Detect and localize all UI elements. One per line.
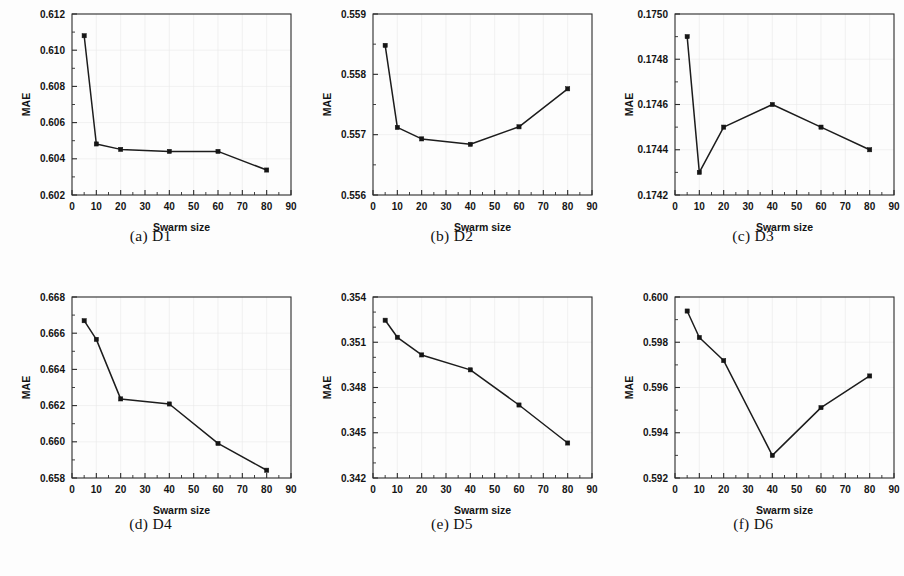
- x-tick-label: 40: [766, 201, 778, 212]
- data-point-marker: [94, 142, 98, 146]
- x-tick-label: 70: [538, 484, 550, 495]
- x-tick-label: 20: [416, 484, 428, 495]
- data-point-marker: [517, 125, 521, 129]
- x-tick-label: 50: [188, 484, 200, 495]
- y-tick-label: 0.348: [341, 382, 366, 393]
- panel-caption-d2: (b) D2: [301, 227, 602, 245]
- panel-caption-d3: (c) D3: [603, 227, 904, 245]
- data-point-marker: [265, 468, 269, 472]
- x-tick-label: 30: [139, 484, 151, 495]
- x-tick-label: 30: [742, 484, 754, 495]
- data-point-marker: [94, 337, 98, 341]
- x-tick-label: 80: [562, 484, 574, 495]
- x-tick-label: 50: [489, 201, 501, 212]
- panel-d3: 0.17420.17440.17460.17480.17500102030405…: [603, 0, 904, 283]
- x-tick-label: 40: [164, 484, 176, 495]
- panel-d2: 0.5560.5570.5580.5590102030405060708090S…: [301, 0, 602, 283]
- y-tick-label: 0.1744: [637, 144, 668, 155]
- x-tick-label: 90: [587, 484, 599, 495]
- y-tick-label: 0.558: [341, 69, 366, 80]
- x-tick-label: 40: [465, 201, 477, 212]
- data-point-marker: [818, 406, 822, 410]
- chart-svg: 0.17420.17440.17460.17480.17500102030405…: [603, 0, 904, 250]
- x-tick-label: 60: [514, 201, 526, 212]
- x-tick-label: 50: [188, 201, 200, 212]
- data-point-marker: [167, 149, 171, 153]
- x-tick-label: 0: [672, 201, 678, 212]
- x-tick-label: 90: [888, 201, 900, 212]
- x-tick-label: 90: [285, 201, 297, 212]
- data-point-marker: [420, 137, 424, 141]
- y-tick-label: 0.610: [40, 45, 65, 56]
- data-point-marker: [685, 35, 689, 39]
- chart-svg: 0.5560.5570.5580.5590102030405060708090S…: [301, 0, 602, 250]
- data-point-marker: [770, 102, 774, 106]
- y-tick-label: 0.1748: [637, 54, 668, 65]
- data-point-marker: [82, 319, 86, 323]
- x-tick-label: 10: [91, 484, 103, 495]
- data-point-marker: [867, 374, 871, 378]
- x-tick-label: 20: [416, 201, 428, 212]
- y-tick-label: 0.660: [40, 436, 65, 447]
- x-tick-label: 90: [888, 484, 900, 495]
- x-tick-label: 90: [587, 201, 599, 212]
- plot-frame: [373, 14, 592, 195]
- x-tick-label: 60: [212, 201, 224, 212]
- plot-frame: [72, 297, 291, 478]
- x-tick-label: 0: [672, 484, 678, 495]
- data-point-marker: [119, 397, 123, 401]
- x-tick-label: 30: [441, 201, 453, 212]
- x-tick-label: 70: [839, 484, 851, 495]
- x-tick-label: 60: [815, 484, 827, 495]
- x-tick-label: 30: [139, 201, 151, 212]
- x-tick-label: 70: [839, 201, 851, 212]
- y-tick-label: 0.602: [40, 190, 65, 201]
- y-tick-label: 0.1742: [637, 190, 668, 201]
- panel-d5: 0.3420.3450.3480.3510.354010203040506070…: [301, 283, 602, 576]
- panel-d1: 0.6020.6040.6060.6080.6100.6120102030405…: [0, 0, 301, 283]
- data-point-marker: [396, 125, 400, 129]
- panel-grid: 0.6020.6040.6060.6080.6100.6120102030405…: [0, 0, 904, 576]
- y-tick-label: 0.557: [341, 129, 366, 140]
- y-tick-label: 0.598: [643, 337, 668, 348]
- data-point-marker: [469, 142, 473, 146]
- y-tick-label: 0.351: [341, 337, 366, 348]
- panel-d4: 0.6580.6600.6620.6640.6660.6680102030405…: [0, 283, 301, 576]
- x-tick-label: 10: [91, 201, 103, 212]
- series-line-mae: [687, 311, 870, 455]
- x-tick-label: 90: [285, 484, 297, 495]
- x-tick-label: 20: [718, 484, 730, 495]
- y-axis-title: MAE: [321, 376, 333, 399]
- y-tick-label: 0.606: [40, 117, 65, 128]
- figure-multi-panel-mae-vs-swarm-size: 0.6020.6040.6060.6080.6100.6120102030405…: [0, 0, 904, 576]
- x-tick-label: 60: [212, 484, 224, 495]
- plot-frame: [72, 14, 291, 195]
- y-axis-title: MAE: [321, 93, 333, 116]
- x-tick-label: 0: [69, 484, 75, 495]
- x-tick-label: 20: [115, 201, 127, 212]
- y-axis-title: MAE: [20, 93, 32, 116]
- y-tick-label: 0.658: [40, 473, 65, 484]
- data-point-marker: [566, 441, 570, 445]
- y-tick-label: 0.592: [643, 473, 668, 484]
- x-tick-label: 80: [261, 201, 273, 212]
- y-tick-label: 0.556: [341, 190, 366, 201]
- y-tick-label: 0.666: [40, 328, 65, 339]
- data-point-marker: [566, 87, 570, 91]
- x-tick-label: 70: [538, 201, 550, 212]
- y-tick-label: 0.559: [341, 9, 366, 20]
- x-tick-label: 0: [371, 484, 377, 495]
- data-point-marker: [469, 368, 473, 372]
- chart-svg: 0.3420.3450.3480.3510.354010203040506070…: [301, 283, 602, 533]
- y-tick-label: 0.594: [643, 427, 668, 438]
- data-point-marker: [420, 353, 424, 357]
- x-tick-label: 40: [164, 201, 176, 212]
- data-point-marker: [216, 149, 220, 153]
- series-line-mae: [84, 321, 267, 471]
- x-tick-label: 30: [742, 201, 754, 212]
- x-tick-label: 10: [693, 201, 705, 212]
- chart-svg: 0.6580.6600.6620.6640.6660.6680102030405…: [0, 283, 301, 533]
- data-point-marker: [517, 403, 521, 407]
- y-axis-title: MAE: [623, 376, 635, 399]
- x-tick-label: 20: [115, 484, 127, 495]
